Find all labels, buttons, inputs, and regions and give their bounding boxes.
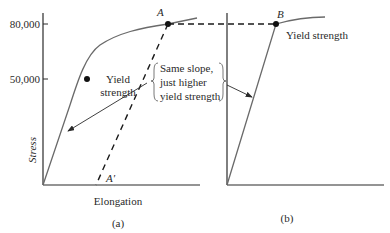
annotation-line3: yield strength (160, 90, 221, 102)
x-axis-label: Elongation (94, 195, 143, 207)
y-tick-50000: 50,000 (10, 73, 41, 85)
y-axis-label: Stress (26, 137, 38, 163)
y-tick-80000: 80,000 (10, 18, 41, 30)
stress-strain-curve-b (227, 17, 325, 185)
yield-point-a (84, 76, 90, 82)
point-a-prime-label: A′ (105, 172, 116, 184)
caption-b: (b) (281, 212, 294, 225)
yield-label-line1: Yield (106, 73, 130, 85)
point-a-label: A (156, 6, 164, 18)
yield-label-line2: strength (100, 86, 136, 98)
point-b-label: B (277, 8, 284, 20)
caption-a: (a) (112, 217, 125, 230)
yield-strength-label-b: Yield strength (286, 29, 349, 41)
annotation-line1: Same slope, (160, 62, 213, 74)
annotation-line2: just higher (159, 76, 207, 88)
arrow-to-slope-b (227, 85, 252, 97)
left-brace-icon (151, 63, 158, 101)
unload-reload-dashed-line (96, 24, 168, 185)
stress-elongation-diagram: 80,000 50,000 Stress Elongation (a) Yiel… (0, 0, 390, 233)
point-b-marker (273, 21, 279, 27)
